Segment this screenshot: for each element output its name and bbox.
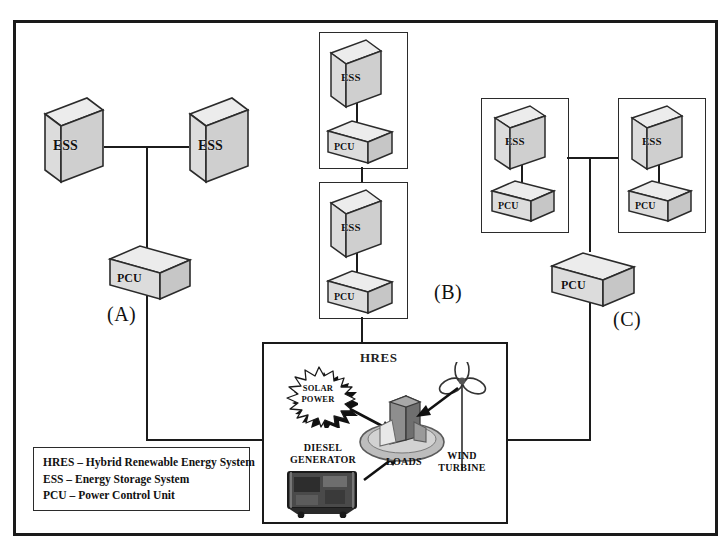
wire-c-pcu-to-main xyxy=(589,296,591,441)
pcu-block-label: PCU xyxy=(635,200,656,211)
arrow-wind-to-loads xyxy=(412,386,460,420)
ess-block-label: ESS xyxy=(341,221,361,233)
pcu-block-a[interactable]: PCU xyxy=(107,243,193,305)
ess-block-c1[interactable]: ESS xyxy=(492,103,548,173)
wire-c-main-bus xyxy=(503,439,591,441)
wire-c-bus-to-pcu xyxy=(589,157,591,252)
ess-block-label: ESS xyxy=(53,138,78,154)
diagram-canvas: ESS ESS PCU (A) ESS xyxy=(0,0,728,551)
wire-a-main-bus xyxy=(146,439,263,441)
legend-box: HRES – Hybrid Renewable Energy System ES… xyxy=(33,447,250,511)
loads-label: LOADS xyxy=(378,456,430,468)
wind-turbine-label: WIND TURBINE xyxy=(428,450,496,474)
pcu-block-label: PCU xyxy=(334,141,355,152)
diesel-generator-label: DIESEL GENERATOR xyxy=(280,442,366,466)
ess-block-label: ESS xyxy=(505,135,525,147)
hres-box: HRES SOLAR POWER DIESEL GENERATOR xyxy=(262,342,508,524)
ess-block-a1[interactable]: ESS xyxy=(41,94,107,186)
wire-c-bus xyxy=(567,157,618,159)
hres-title: HRES xyxy=(360,350,397,366)
legend-line-pcu: PCU – Power Control Unit xyxy=(43,487,241,504)
group-label-b: (B) xyxy=(434,281,462,304)
ess-block-label: ESS xyxy=(341,71,361,83)
wire-a-bus-to-pcu xyxy=(146,146,148,256)
ess-block-a2[interactable]: ESS xyxy=(186,94,252,186)
pcu-block-label: PCU xyxy=(498,200,519,211)
pcu-block-c1[interactable]: PCU xyxy=(489,178,557,226)
group-label-a: (A) xyxy=(107,303,136,326)
ess-block-label: ESS xyxy=(198,138,223,154)
wind-label-line2: TURBINE xyxy=(438,462,486,473)
wire-a-pcu-to-main xyxy=(146,285,148,441)
diesel-label-line2: GENERATOR xyxy=(290,454,356,465)
ess-block-b1[interactable]: ESS xyxy=(328,37,384,111)
ess-block-b2[interactable]: ESS xyxy=(328,187,384,261)
pcu-block-b2[interactable]: PCU xyxy=(325,268,395,318)
solar-power-icon: SOLAR POWER xyxy=(278,366,358,428)
solar-label-line1: SOLAR xyxy=(303,383,333,393)
solar-label-line2: POWER xyxy=(301,394,334,404)
pcu-block-c-main[interactable]: PCU xyxy=(549,250,637,312)
pcu-block-c2[interactable]: PCU xyxy=(626,178,694,226)
pcu-block-label: PCU xyxy=(561,278,586,293)
wind-label-line1: WIND xyxy=(447,450,477,461)
ess-block-label: ESS xyxy=(642,135,662,147)
diesel-generator-icon xyxy=(285,468,363,522)
diesel-label-line1: DIESEL xyxy=(304,442,343,453)
ess-block-c2[interactable]: ESS xyxy=(629,103,685,173)
pcu-block-b1[interactable]: PCU xyxy=(325,118,395,168)
pcu-block-label: PCU xyxy=(117,271,142,286)
wire-b-interbox xyxy=(361,167,363,182)
group-label-c: (C) xyxy=(613,308,641,331)
pcu-block-label: PCU xyxy=(334,291,355,302)
legend-line-hres: HRES – Hybrid Renewable Energy System xyxy=(43,454,241,471)
legend-line-ess: ESS – Energy Storage System xyxy=(43,471,241,488)
solar-power-label: SOLAR POWER xyxy=(278,383,358,404)
wire-b-to-hres xyxy=(361,317,363,342)
